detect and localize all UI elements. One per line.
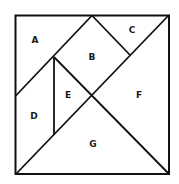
piece-label-c: C — [129, 25, 136, 35]
piece-label-f: F — [136, 90, 142, 100]
piece-label-a: A — [32, 35, 39, 45]
piece-label-b: B — [89, 52, 96, 62]
piece-label-g: G — [89, 139, 96, 149]
piece-label-d: D — [30, 111, 37, 121]
edge-b-c — [92, 16, 130, 56]
tangram-diagram: A B C D E F G — [0, 0, 179, 184]
piece-label-e: E — [65, 90, 71, 100]
